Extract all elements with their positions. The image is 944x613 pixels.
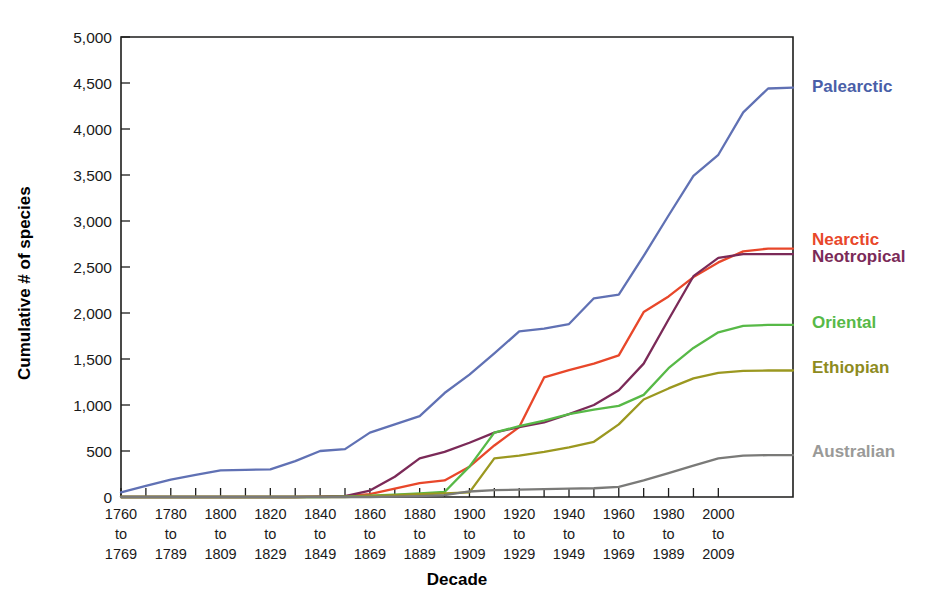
x-tick-label-start: 1880: [404, 506, 436, 522]
x-tick-label-end: 1969: [603, 546, 635, 562]
x-tick-label-to: to: [513, 526, 525, 542]
x-tick-label-to: to: [463, 526, 475, 542]
x-tick-label-start: 1980: [652, 506, 684, 522]
x-tick-label-group: 1760to1769: [105, 506, 137, 562]
x-tick-label-end: 1989: [652, 546, 684, 562]
y-tick-label: 0: [103, 489, 112, 506]
y-axis-ticks: [121, 37, 130, 497]
series-label-australian: Australian: [812, 442, 895, 461]
x-tick-label-start: 1820: [254, 506, 286, 522]
y-tick-label: 3,000: [73, 213, 112, 230]
y-tick-label: 2,500: [73, 259, 112, 276]
x-tick-label-to: to: [563, 526, 575, 542]
y-tick-label: 2,000: [73, 305, 112, 322]
x-tick-label-end: 1949: [553, 546, 585, 562]
plot-frame: [121, 37, 793, 497]
x-tick-label-to: to: [165, 526, 177, 542]
x-tick-label-start: 1860: [354, 506, 386, 522]
x-tick-label-end: 1889: [404, 546, 436, 562]
x-tick-label-to: to: [115, 526, 127, 542]
x-tick-label-end: 1829: [254, 546, 286, 562]
y-tick-label: 500: [86, 443, 112, 460]
x-tick-label-group: 2000to2009: [702, 506, 734, 562]
x-tick-label-group: 1800to1809: [204, 506, 236, 562]
series-line-neotropical: [121, 254, 793, 497]
x-tick-label-start: 1840: [304, 506, 336, 522]
x-tick-label-to: to: [215, 526, 227, 542]
x-tick-label-to: to: [314, 526, 326, 542]
y-tick-label: 3,500: [73, 167, 112, 184]
x-tick-label-to: to: [613, 526, 625, 542]
x-tick-label-end: 1789: [155, 546, 187, 562]
y-tick-label: 1,000: [73, 397, 112, 414]
x-tick-label-end: 1809: [204, 546, 236, 562]
x-tick-label-end: 1909: [453, 546, 485, 562]
x-tick-label-start: 1960: [603, 506, 635, 522]
x-tick-label-group: 1940to1949: [553, 506, 585, 562]
series-label-neotropical: Neotropical: [812, 247, 906, 266]
y-tick-label: 4,000: [73, 121, 112, 138]
x-tick-label-start: 1940: [553, 506, 585, 522]
x-tick-label-group: 1860to1869: [354, 506, 386, 562]
x-tick-label-to: to: [663, 526, 675, 542]
x-tick-label-end: 1869: [354, 546, 386, 562]
series-line-australian: [121, 455, 793, 497]
x-tick-label-group: 1900to1909: [453, 506, 485, 562]
x-tick-label-to: to: [264, 526, 276, 542]
x-tick-label-to: to: [712, 526, 724, 542]
x-tick-label-group: 1920to1929: [503, 506, 535, 562]
x-tick-label-group: 1780to1789: [155, 506, 187, 562]
series-label-nearctic: Nearctic: [812, 230, 879, 249]
x-tick-label-group: 1880to1889: [404, 506, 436, 562]
series-label-palearctic: Palearctic: [812, 77, 892, 96]
x-tick-label-start: 1760: [105, 506, 137, 522]
x-tick-label-to: to: [364, 526, 376, 542]
x-tick-label-group: 1980to1989: [652, 506, 684, 562]
chart-figure: 05001,0001,5002,0002,5003,0003,5004,0004…: [0, 0, 944, 613]
series-label-ethiopian: Ethiopian: [812, 358, 889, 377]
x-tick-label-start: 1780: [155, 506, 187, 522]
y-tick-label: 5,000: [73, 29, 112, 46]
x-tick-label-end: 2009: [702, 546, 734, 562]
y-axis-tick-labels: 05001,0001,5002,0002,5003,0003,5004,0004…: [73, 29, 112, 506]
x-tick-label-start: 1900: [453, 506, 485, 522]
x-tick-label-start: 1800: [204, 506, 236, 522]
x-tick-label-group: 1820to1829: [254, 506, 286, 562]
y-tick-label: 4,500: [73, 75, 112, 92]
axis-frame: [121, 37, 793, 497]
chart-svg: 05001,0001,5002,0002,5003,0003,5004,0004…: [0, 0, 944, 613]
x-tick-label-end: 1929: [503, 546, 535, 562]
x-tick-label-group: 1960to1969: [603, 506, 635, 562]
series-lines: [121, 88, 793, 497]
x-tick-label-start: 1920: [503, 506, 535, 522]
x-tick-label-end: 1849: [304, 546, 336, 562]
series-line-nearctic: [121, 249, 793, 497]
x-axis-tick-labels: 1760to17691780to17891800to18091820to1829…: [105, 506, 735, 562]
series-line-palearctic: [121, 88, 793, 493]
x-tick-label-group: 1840to1849: [304, 506, 336, 562]
y-tick-label: 1,500: [73, 351, 112, 368]
series-labels: PalearcticNearcticNeotropicalOrientalEth…: [812, 77, 906, 461]
y-axis-title: Cumulative # of species: [15, 186, 34, 380]
x-tick-label-end: 1769: [105, 546, 137, 562]
series-label-oriental: Oriental: [812, 313, 876, 332]
x-tick-label-start: 2000: [702, 506, 734, 522]
x-tick-label-to: to: [414, 526, 426, 542]
x-axis-title: Decade: [427, 570, 487, 589]
